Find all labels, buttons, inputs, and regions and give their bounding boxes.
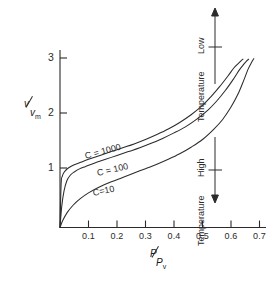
high-temperature-arrow-down xyxy=(212,195,219,203)
chart-figure: 1 2 3 0.1 0.2 0.3 0.4 0.5 0.6 0.7 v vm P… xyxy=(0,0,277,283)
x-tick-label-0-1: 0.1 xyxy=(78,231,100,241)
curve-c-10 xyxy=(60,59,254,228)
x-tick-label-0-6: 0.6 xyxy=(220,231,242,241)
y-tick-marks xyxy=(60,58,67,168)
curve-c-100 xyxy=(60,59,249,227)
x-tick-label-0-4: 0.4 xyxy=(163,231,185,241)
x-tick-label-0-2: 0.2 xyxy=(106,231,128,241)
low-temperature-word-secondary: Temperature xyxy=(196,71,206,122)
y-axis-title: v vm xyxy=(24,99,46,121)
y-axis-title-denominator: vm xyxy=(30,108,41,120)
x-axis-title-denominator: Pv xyxy=(156,258,166,270)
x-tick-marks xyxy=(89,221,260,228)
high-temperature-word-secondary: Temperature xyxy=(196,195,206,246)
high-temperature-word-primary: High xyxy=(196,158,206,177)
low-temperature-arrow-up xyxy=(212,8,219,16)
y-tick-label-3: 3 xyxy=(40,51,54,63)
low-temperature-annotation xyxy=(209,8,223,84)
y-tick-label-1: 1 xyxy=(40,161,54,173)
low-temperature-word-primary: Low xyxy=(196,37,206,54)
x-tick-label-0-7: 0.7 xyxy=(249,231,271,241)
x-axis-title: P Pv xyxy=(150,249,174,271)
x-tick-label-0-3: 0.3 xyxy=(135,231,157,241)
high-temperature-annotation xyxy=(209,137,223,203)
